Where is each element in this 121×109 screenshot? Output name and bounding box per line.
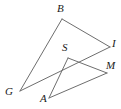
segment-BI xyxy=(62,19,110,47)
vertex-label-I: I xyxy=(112,38,116,49)
vertex-label-G: G xyxy=(5,86,13,97)
segment-SM xyxy=(68,58,107,73)
segment-AM xyxy=(49,73,107,98)
geometry-figure: B I S M G A xyxy=(0,0,121,109)
segment-SA xyxy=(49,58,68,98)
segments-group xyxy=(20,19,110,98)
vertex-label-A: A xyxy=(40,93,47,104)
vertex-label-M: M xyxy=(106,60,115,71)
figure-canvas xyxy=(0,0,121,109)
vertex-label-S: S xyxy=(62,42,68,53)
vertex-label-B: B xyxy=(57,3,64,14)
